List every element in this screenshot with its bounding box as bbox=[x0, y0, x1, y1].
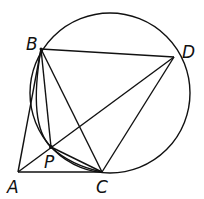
segment-cd bbox=[102, 57, 174, 172]
label-c: C bbox=[96, 177, 108, 197]
segment-ad bbox=[18, 57, 174, 172]
segment-bp bbox=[41, 49, 51, 147]
label-b: B bbox=[26, 34, 38, 54]
geometry-diagram: B D P A C bbox=[0, 0, 204, 199]
label-p: P bbox=[44, 152, 55, 172]
point-p-dot bbox=[49, 145, 53, 149]
segment-pc bbox=[51, 147, 102, 172]
point-b-dot bbox=[40, 48, 43, 51]
label-a: A bbox=[6, 177, 19, 197]
label-d: D bbox=[182, 42, 195, 62]
segment-bd bbox=[41, 49, 174, 57]
